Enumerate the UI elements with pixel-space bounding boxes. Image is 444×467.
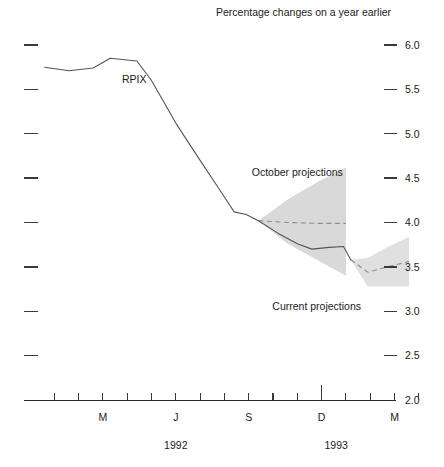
y-tick-label-3: 3.0 — [405, 305, 420, 317]
y-tick-label-5: 5.0 — [405, 128, 420, 140]
y-tick-label-3-5: 3.5 — [405, 261, 420, 273]
x-tick-label-d-12: D — [318, 411, 326, 423]
y-tick-label-4-5: 4.5 — [405, 172, 420, 184]
x-axis-year-1992: 1992 — [164, 439, 188, 451]
y-axis-right-ticks: 2.02.53.03.54.04.55.05.56.0 — [384, 39, 420, 406]
fan-band-current-projections — [351, 237, 409, 287]
x-axis-ticks — [54, 385, 419, 400]
y-axis-left-ticks — [24, 45, 38, 356]
chart-title: Percentage changes on a year earlier — [216, 6, 392, 18]
x-axis-labels: MJSDM — [99, 411, 399, 423]
rpix-projection-chart: Percentage changes on a year earlier 2.0… — [0, 0, 444, 467]
x-tick-label-m-3: M — [99, 411, 108, 423]
x-axis-year-labels: 19921993 — [164, 439, 348, 451]
annotation-october-projections: October projections — [252, 166, 343, 178]
x-tick-label-j-6: J — [173, 411, 178, 423]
x-axis-year-1993: 1993 — [325, 439, 349, 451]
y-tick-label-2-5: 2.5 — [405, 349, 420, 361]
annotation-current-projections: Current projections — [272, 300, 361, 312]
y-tick-label-5-5: 5.5 — [405, 83, 420, 95]
projection-fans-group — [258, 167, 409, 286]
x-tick-label-m-15: M — [390, 411, 399, 423]
chart-container: Percentage changes on a year earlier 2.0… — [0, 0, 444, 467]
series-label-rpix: RPIX — [122, 73, 147, 85]
x-tick-label-s-9: S — [245, 411, 252, 423]
y-tick-label-4: 4.0 — [405, 216, 420, 228]
y-tick-label-6: 6.0 — [405, 39, 420, 51]
y-tick-label-2: 2.0 — [405, 394, 420, 406]
